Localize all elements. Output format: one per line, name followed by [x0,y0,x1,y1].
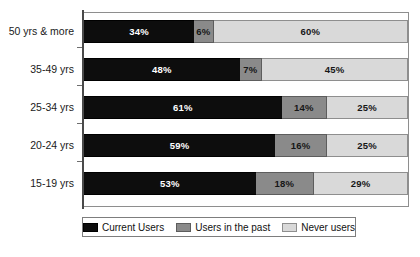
stacked-bar-chart: 50 yrs & more 34% 6% 60% 35-49 yrs 48% 7… [0,0,420,257]
bar-segment-users-in-the-past: 6% [194,20,213,43]
bar-segment-value: 14% [294,102,314,113]
y-axis-tick [77,85,82,86]
category-label: 25-34 yrs [0,96,74,119]
bar-segment-never-users: 25% [327,96,408,119]
bar-segment-value: 53% [160,178,180,189]
bar-segment-value: 25% [357,140,377,151]
bar-segment-users-in-the-past: 18% [256,172,314,195]
bar-track: 61% 14% 25% [84,96,408,119]
bar-segment-current-users: 59% [84,134,275,157]
legend-item-never-users: Never users [282,222,355,233]
chart-legend: Current Users Users in the past Never us… [82,217,356,237]
bar-row: 25-34 yrs 61% 14% 25% [0,96,420,119]
bar-segment-value: 6% [196,26,210,37]
bar-track: 59% 16% 25% [84,134,408,157]
bar-segment-users-in-the-past: 14% [282,96,327,119]
bar-segment-value: 45% [325,64,345,75]
bar-segment-value: 60% [300,26,320,37]
bar-segment-value: 7% [243,64,257,75]
bar-segment-value: 18% [275,178,295,189]
legend-swatch-never-users [282,223,297,232]
y-axis-tick [77,123,82,124]
bar-track: 48% 7% 45% [84,58,408,81]
y-axis-tick [77,161,82,162]
bar-segment-never-users: 25% [327,134,408,157]
category-label: 20-24 yrs [0,134,74,157]
bar-segment-never-users: 29% [314,172,408,195]
bar-segment-value: 48% [152,64,172,75]
bar-segment-value: 61% [173,102,193,113]
bar-segment-value: 59% [170,140,190,151]
legend-label: Current Users [102,222,164,233]
legend-item-users-in-the-past: Users in the past [176,222,270,233]
bar-row: 50 yrs & more 34% 6% 60% [0,20,420,43]
category-label: 15-19 yrs [0,172,74,195]
legend-label: Never users [301,222,355,233]
bar-row: 15-19 yrs 53% 18% 29% [0,172,420,195]
bar-segment-never-users: 60% [214,20,408,43]
bar-segment-users-in-the-past: 16% [275,134,327,157]
y-axis-tick [77,47,82,48]
bar-segment-value: 29% [351,178,371,189]
bar-segment-never-users: 45% [262,58,408,81]
legend-swatch-current-users [83,223,98,232]
bar-segment-current-users: 53% [84,172,256,195]
bar-row: 20-24 yrs 59% 16% 25% [0,134,420,157]
category-label: 35-49 yrs [0,58,74,81]
bar-segment-users-in-the-past: 7% [240,58,263,81]
category-label: 50 yrs & more [0,20,74,43]
bar-track: 53% 18% 29% [84,172,408,195]
legend-swatch-users-in-the-past [176,223,191,232]
bar-segment-value: 25% [357,102,377,113]
legend-label: Users in the past [195,222,270,233]
bar-segment-current-users: 34% [84,20,194,43]
bar-row: 35-49 yrs 48% 7% 45% [0,58,420,81]
bar-track: 34% 6% 60% [84,20,408,43]
bar-segment-current-users: 48% [84,58,240,81]
bar-segment-value: 34% [129,26,149,37]
bar-segment-value: 16% [291,140,311,151]
bar-segment-current-users: 61% [84,96,282,119]
legend-item-current-users: Current Users [83,222,164,233]
